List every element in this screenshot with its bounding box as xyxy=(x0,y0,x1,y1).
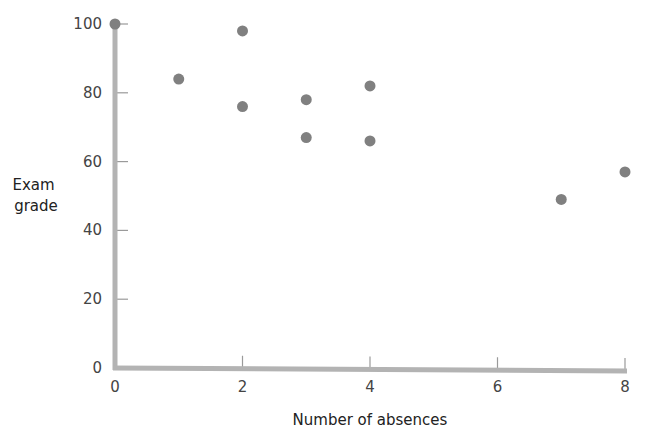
x-axis-ticks: 02468 xyxy=(110,356,630,396)
x-axis-line xyxy=(113,368,627,371)
data-point xyxy=(556,194,567,205)
y-axis-title-line-2: grade xyxy=(14,197,58,215)
scatter-chart: 02468 020406080100 Number of absences Ex… xyxy=(0,0,652,443)
y-tick-label: 40 xyxy=(83,221,102,239)
data-point xyxy=(620,166,631,177)
x-tick-label: 8 xyxy=(620,378,630,396)
y-axis-title-line-1: Exam xyxy=(13,176,55,194)
x-axis-title: Number of absences xyxy=(293,411,448,429)
y-tick-label: 80 xyxy=(83,84,102,102)
x-tick-label: 2 xyxy=(238,378,248,396)
y-tick-label: 20 xyxy=(83,290,102,308)
y-tick-label: 100 xyxy=(73,15,102,33)
data-point xyxy=(301,94,312,105)
data-point xyxy=(110,19,121,30)
y-tick-label: 60 xyxy=(83,153,102,171)
data-point xyxy=(237,25,248,36)
data-point xyxy=(173,74,184,85)
x-tick-label: 6 xyxy=(493,378,503,396)
data-point xyxy=(365,80,376,91)
x-tick-label: 0 xyxy=(110,378,120,396)
axes xyxy=(113,24,627,371)
data-point xyxy=(237,101,248,112)
y-axis-ticks: 020406080100 xyxy=(73,15,128,377)
y-tick-label: 0 xyxy=(92,359,102,377)
y-axis-title: Exam grade xyxy=(13,176,60,215)
data-point xyxy=(365,135,376,146)
data-point xyxy=(301,132,312,143)
x-tick-label: 4 xyxy=(365,378,375,396)
data-points xyxy=(110,19,631,205)
